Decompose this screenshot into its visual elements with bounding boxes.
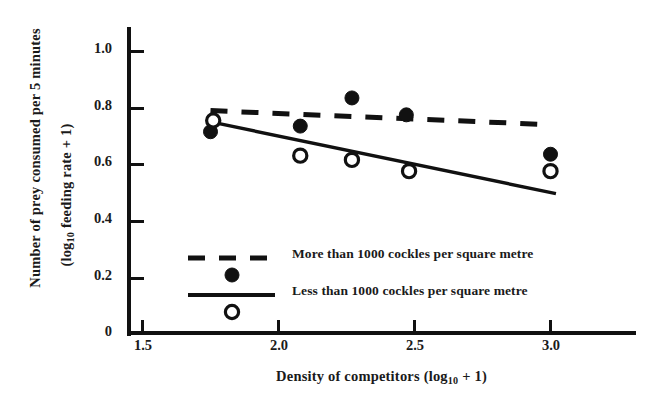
- legend-sample-marker-filled: [225, 268, 239, 282]
- legend-label-less-than-1000: Less than 1000 cockles per square metre: [292, 283, 528, 299]
- data-point-open: [345, 153, 358, 166]
- data-point-open: [294, 149, 307, 162]
- legend-sample-marker-open: [225, 305, 238, 318]
- data-point-open: [207, 114, 220, 127]
- data-point-filled: [544, 147, 558, 161]
- x-axis-title-post: + 1): [458, 368, 487, 384]
- trend-line-dashed: [211, 111, 551, 125]
- data-point-open: [544, 165, 557, 178]
- x-axis-title-pre: Density of competitors (log: [276, 368, 448, 384]
- trend-line-solid: [213, 122, 556, 193]
- data-point-open: [402, 165, 415, 178]
- data-point-filled: [293, 119, 307, 133]
- data-point-filled: [345, 91, 359, 105]
- data-point-filled: [399, 108, 413, 122]
- figure-scatter-plot: Number of prey consumed per 5 minutes (l…: [0, 0, 647, 420]
- x-axis-title: Density of competitors (log10 + 1): [127, 368, 636, 386]
- x-axis-title-sub: 10: [448, 375, 459, 386]
- plot-canvas: [0, 0, 647, 420]
- legend-label-more-than-1000: More than 1000 cockles per square metre: [292, 246, 533, 262]
